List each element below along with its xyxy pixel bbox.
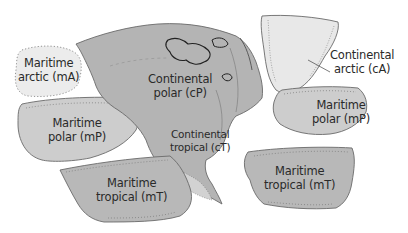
label-maritime-polar-east: Maritime polar (mP) <box>312 98 370 126</box>
air-masses-diagram: Maritime arctic (mA) Continental polar (… <box>0 0 408 233</box>
label-maritime-tropical-east: Maritime tropical (mT) <box>264 164 335 192</box>
label-continental-tropical: Continental tropical (cT) <box>170 128 230 154</box>
label-continental-arctic: Continental arctic (cA) <box>330 48 394 76</box>
label-maritime-polar-west: Maritime polar (mP) <box>48 116 106 144</box>
label-continental-polar: Continental polar (cP) <box>148 72 212 100</box>
label-maritime-tropical-west: Maritime tropical (mT) <box>96 176 167 204</box>
region-continental-arctic <box>261 15 338 92</box>
label-maritime-arctic: Maritime arctic (mA) <box>18 56 79 84</box>
